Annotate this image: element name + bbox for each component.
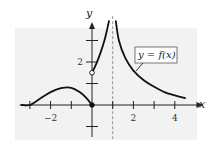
y-tick-label: 2 — [77, 57, 83, 67]
open-point — [90, 70, 95, 75]
x-axis-label: x — [199, 98, 206, 111]
y-axis-arrow — [89, 22, 95, 29]
x-tick-label: −2 — [44, 113, 57, 123]
legend-label: y = f(x) — [137, 49, 176, 60]
y-axis-label: y — [85, 7, 93, 20]
chart: −2242 x y y = f(x) — [0, 0, 211, 145]
plot-background — [15, 28, 197, 140]
filled-point — [90, 103, 95, 108]
x-tick-label: 2 — [131, 113, 137, 123]
x-tick-label: 4 — [172, 113, 178, 123]
